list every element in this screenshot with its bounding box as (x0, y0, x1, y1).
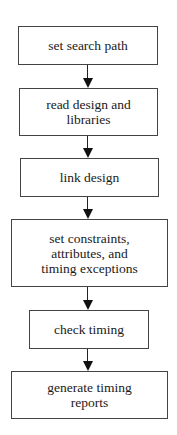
step-read-design-and-libraries: read design and libraries (19, 88, 158, 136)
arrowhead (83, 300, 93, 310)
step-label-line-2: attributes, and (41, 246, 137, 261)
step-label: set search path (48, 38, 127, 53)
step-label-line-3: timing exceptions (41, 261, 137, 276)
arrow-down-icon (83, 65, 93, 88)
arrow-shaft (87, 287, 88, 301)
arrowhead (83, 361, 93, 371)
arrow-down-icon (83, 349, 93, 371)
step-label: check timing (54, 322, 124, 337)
step-label-line-2: reports (47, 395, 131, 410)
step-generate-timing-reports: generate timing reports (11, 371, 168, 419)
step-label-line-1: generate timing (47, 380, 131, 395)
step-link-design: link design (20, 158, 159, 197)
arrow-down-icon (83, 136, 93, 158)
arrowhead (83, 148, 93, 158)
step-label-line-2: libraries (46, 112, 131, 127)
arrowhead (83, 209, 93, 219)
step-label-line-1: read design and (46, 97, 131, 112)
arrow-down-icon (83, 197, 93, 219)
arrow-shaft (87, 65, 88, 79)
step-check-timing: check timing (29, 310, 149, 349)
arrowhead (83, 78, 93, 88)
step-label: link design (60, 170, 120, 185)
arrow-down-icon (83, 287, 93, 310)
step-set-constraints-attributes-timing-exceptions: set constraints, attributes, and timing … (11, 219, 168, 287)
step-label-line-1: set constraints, (41, 231, 137, 246)
step-set-search-path: set search path (18, 26, 158, 65)
